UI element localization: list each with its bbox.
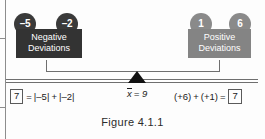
mean-label: x = 9 <box>127 89 148 99</box>
negative-sum-plus: + <box>50 92 58 102</box>
page-edge-tick-bottom <box>0 107 6 108</box>
negative-sum-term1: |–5| <box>33 92 51 102</box>
page-edge-tick-top <box>0 38 6 39</box>
equation-positive-sum: (+6) + (+1) = 7 <box>173 89 244 104</box>
negative-sum-term2: |–2| <box>58 92 76 102</box>
negative-deviations-line2: Deviations <box>20 43 78 54</box>
positive-sum-plus: + <box>192 92 200 102</box>
positive-deviations-line1: Positive <box>192 32 247 43</box>
fulcrum-triangle-icon <box>128 71 146 83</box>
positive-sum-term1: (+6) <box>173 92 192 102</box>
figure-balance-beam: –5 –2 1 6 Negative Deviations Positive D… <box>0 0 265 139</box>
equation-negative-sum: 7 = |–5| + |–2| <box>8 89 75 104</box>
negative-deviations-line1: Negative <box>20 32 78 43</box>
label-box-negative-deviations: Negative Deviations <box>16 29 82 58</box>
positive-deviations-line2: Deviations <box>192 43 247 54</box>
positive-sum-result: 7 <box>228 89 241 104</box>
mean-value: = 9 <box>133 89 148 99</box>
mean-symbol-xbar: x <box>127 89 133 99</box>
label-box-positive-deviations: Positive Deviations <box>188 29 251 58</box>
positive-sum-equals: = <box>219 92 227 102</box>
positive-sum-term2: (+1) <box>200 92 219 102</box>
figure-caption: Figure 4.1.1 <box>0 116 265 128</box>
negative-sum-equals: = <box>25 92 33 102</box>
negative-sum-result: 7 <box>10 89 23 104</box>
